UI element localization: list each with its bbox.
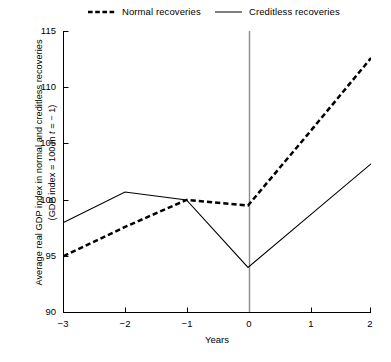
chart-figure: Normal recoveries Creditless recoveries … [0,0,391,362]
x-tick-label-0: 0 [236,319,262,329]
y-axis-title: Average real GDP index in normal and cre… [33,18,58,308]
y-tick-label-105: 105 [30,138,56,148]
plot-area: 115 110 105 100 95 90 −3 −2 −1 0 1 2 [63,31,371,313]
legend-label-creditless-recoveries: Creditless recoveries [249,6,340,17]
x-tick-label-2: 2 [357,319,383,329]
series-line-creditless-recoveries [64,164,372,268]
legend-label-normal-recoveries: Normal recoveries [122,6,201,17]
y-tick-label-115: 115 [30,26,56,36]
legend-entry-normal-recoveries: Normal recoveries [88,6,201,17]
x-tick-label-1: 1 [298,319,324,329]
x-axis-title: Years [63,334,371,345]
plot-svg [63,31,371,313]
y-tick-label-110: 110 [30,82,56,92]
y-axis-title-line2-part-b: = − 1) [46,105,56,132]
series-line-normal-recoveries [64,58,372,256]
x-tick-label-minus1: −1 [174,319,200,329]
x-tick-label-minus3: −3 [50,319,76,329]
chart-legend: Normal recoveries Creditless recoveries [0,6,391,28]
y-tick-label-95: 95 [30,251,56,261]
y-axis-ticks [64,32,69,257]
x-tick-label-minus2: −2 [112,319,138,329]
y-axis-title-line2: (GDP index = 100 in t = − 1) [45,18,58,308]
y-tick-label-90: 90 [30,307,56,317]
x-axis-ticks [64,308,371,313]
legend-entry-creditless-recoveries: Creditless recoveries [215,6,340,17]
solid-line-icon [215,7,242,17]
y-axis-title-line1: Average real GDP index in normal and cre… [34,39,44,285]
y-axis-title-line2-italic-t: t [46,131,56,134]
dashed-line-icon [88,7,115,17]
y-tick-label-100: 100 [30,195,56,205]
